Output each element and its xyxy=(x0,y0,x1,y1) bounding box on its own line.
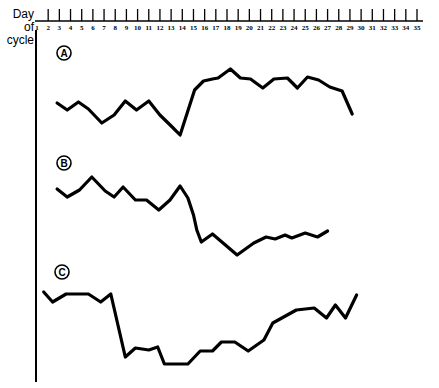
x-tick-label: 3 xyxy=(58,24,62,32)
x-tick-label: 4 xyxy=(69,24,73,32)
series-layer xyxy=(44,69,357,364)
x-tick-label: 29 xyxy=(346,24,354,32)
x-tick-label: 20 xyxy=(246,24,254,32)
x-tick-label: 32 xyxy=(380,24,388,32)
x-tick-label: 13 xyxy=(168,24,176,32)
x-tick-label: 6 xyxy=(91,24,95,32)
x-tick-label: 25 xyxy=(302,24,310,32)
x-tick-label: 5 xyxy=(80,24,84,32)
x-tick-label: 17 xyxy=(212,24,220,32)
x-tick-label: 8 xyxy=(113,24,117,32)
x-tick-label: 18 xyxy=(224,24,232,32)
x-tick-label: 35 xyxy=(414,24,422,32)
x-tick-label: 2 xyxy=(46,24,50,32)
x-tick-label: 11 xyxy=(145,24,152,32)
x-tick-label: 19 xyxy=(235,24,243,32)
x-tick-label: 16 xyxy=(201,24,209,32)
x-tick-label: 15 xyxy=(190,24,198,32)
x-tick-label: 26 xyxy=(313,24,321,32)
series-line-a xyxy=(57,69,352,135)
x-tick-label: 34 xyxy=(402,24,410,32)
x-tick-label: 24 xyxy=(291,24,299,32)
x-tick-label: 10 xyxy=(134,24,142,32)
x-tick-label: 12 xyxy=(156,24,164,32)
x-tick-label: 28 xyxy=(335,24,343,32)
x-tick-label: 22 xyxy=(268,24,276,32)
x-tick-label: 14 xyxy=(179,24,187,32)
x-tick-label: 33 xyxy=(391,24,399,32)
x-tick-label: 9 xyxy=(125,24,129,32)
x-tick-label: 31 xyxy=(369,24,377,32)
x-tick-label: 27 xyxy=(324,24,332,32)
series-line-b xyxy=(57,177,328,255)
x-tick-label: 23 xyxy=(279,24,287,32)
panel-label-c: C xyxy=(58,267,65,278)
chart: 1234567891011121314151617181920212223242… xyxy=(0,0,439,388)
series-line-c xyxy=(44,292,357,364)
x-axis: 1234567891011121314151617181920212223242… xyxy=(35,9,423,32)
panel-labels: ABC xyxy=(55,46,71,279)
x-tick-label: 7 xyxy=(102,24,106,32)
x-tick-label: 30 xyxy=(358,24,366,32)
panel-label-b: B xyxy=(60,158,67,169)
x-tick-label: 21 xyxy=(257,24,265,32)
panel-label-a: A xyxy=(60,48,67,59)
